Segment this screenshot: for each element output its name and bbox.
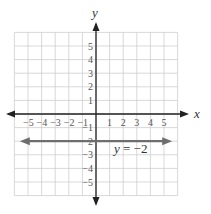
y-tick-label: −4 [82,163,93,174]
line-right-arrow-icon [162,137,172,145]
y-tick-label: 5 [88,41,93,52]
y-tick-label: −1 [82,122,93,133]
y-tick-label: 3 [88,68,93,79]
y-axis-up-arrow-icon [93,22,100,31]
x-tick-label: −4 [37,117,48,128]
x-tick-label: 4 [148,117,153,128]
x-axis-label: x [193,106,200,121]
axes [6,22,189,206]
x-tick-label: 3 [134,117,139,128]
x-axis-right-arrow-icon [180,111,189,118]
y-tick-label: −3 [82,149,93,160]
x-tick-label: 5 [162,117,167,128]
y-tick-label: 4 [88,54,93,65]
x-tick-label: −3 [50,117,61,128]
line-left-arrow-icon [20,137,30,145]
line-equation-label: y = −2 [112,141,147,156]
coordinate-plane: −5−4−3−2−11234554321−1−2−3−4−5 y x y = −… [0,0,211,214]
y-axis-label: y [90,5,98,20]
y-tick-label: 2 [88,81,93,92]
y-tick-label: −5 [82,177,93,188]
x-tick-label: −2 [64,117,75,128]
x-tick-label: 2 [121,117,126,128]
x-axis-left-arrow-icon [6,111,15,118]
x-tick-label: 1 [107,117,112,128]
y-tick-label: 1 [88,95,93,106]
x-tick-label: −5 [23,117,34,128]
y-axis-down-arrow-icon [93,197,100,206]
